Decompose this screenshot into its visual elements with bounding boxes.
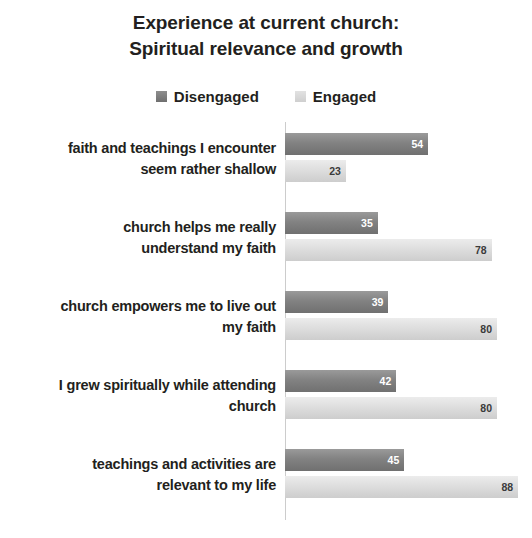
bar-value-label: 54 bbox=[411, 139, 423, 150]
bar-value-label: 88 bbox=[502, 482, 514, 493]
bar-engaged[interactable]: 80 bbox=[285, 318, 497, 340]
bar-disengaged[interactable]: 39 bbox=[285, 291, 388, 313]
bar-disengaged[interactable]: 42 bbox=[285, 370, 396, 392]
category-label: I grew spiritually while attending churc… bbox=[8, 375, 276, 417]
category-label-line: seem rather shallow bbox=[8, 159, 276, 180]
bar-value-label: 39 bbox=[372, 297, 384, 308]
chart-legend: Disengaged Engaged bbox=[0, 88, 532, 105]
bar-group: I grew spiritually while attending churc… bbox=[0, 367, 532, 425]
category-label-line: relevant to my life bbox=[8, 475, 276, 496]
bar-engaged[interactable]: 78 bbox=[285, 239, 492, 261]
legend-swatch-engaged-icon bbox=[295, 91, 306, 102]
category-label-line: church empowers me to live out bbox=[8, 296, 276, 317]
bar-disengaged[interactable]: 35 bbox=[285, 212, 378, 234]
bar-engaged[interactable]: 80 bbox=[285, 397, 497, 419]
category-label: faith and teachings I encounter seem rat… bbox=[8, 138, 276, 180]
plot-area: faith and teachings I encounter seem rat… bbox=[0, 122, 532, 522]
legend-label-engaged: Engaged bbox=[313, 88, 376, 105]
bar-value-label: 35 bbox=[361, 218, 373, 229]
category-label: church helps me really understand my fai… bbox=[8, 217, 276, 259]
category-label-line: understand my faith bbox=[8, 238, 276, 259]
category-label-line: teachings and activities are bbox=[8, 454, 276, 475]
category-label-line: faith and teachings I encounter bbox=[8, 138, 276, 159]
category-label: church empowers me to live out my faith bbox=[8, 296, 276, 338]
bar-value-label: 45 bbox=[388, 455, 400, 466]
bar-group: church helps me really understand my fai… bbox=[0, 209, 532, 267]
bar-value-label: 80 bbox=[480, 324, 492, 335]
legend-swatch-disengaged-icon bbox=[156, 91, 167, 102]
bar-chart: Experience at current church: Spiritual … bbox=[0, 0, 532, 538]
bar-disengaged[interactable]: 54 bbox=[285, 133, 428, 155]
legend-label-disengaged: Disengaged bbox=[174, 88, 259, 105]
chart-title: Experience at current church: Spiritual … bbox=[0, 10, 532, 61]
bar-group: teachings and activities are relevant to… bbox=[0, 446, 532, 504]
bar-group: faith and teachings I encounter seem rat… bbox=[0, 130, 532, 188]
legend-entry-engaged[interactable]: Engaged bbox=[295, 88, 376, 105]
bar-value-label: 80 bbox=[480, 403, 492, 414]
bar-disengaged[interactable]: 45 bbox=[285, 449, 404, 471]
bar-engaged[interactable]: 88 bbox=[285, 476, 518, 498]
bar-value-label: 78 bbox=[475, 245, 487, 256]
chart-title-line-1: Experience at current church: bbox=[0, 10, 532, 36]
category-label: teachings and activities are relevant to… bbox=[8, 454, 276, 496]
legend-entry-disengaged[interactable]: Disengaged bbox=[156, 88, 259, 105]
category-label-line: church helps me really bbox=[8, 217, 276, 238]
bar-value-label: 42 bbox=[380, 376, 392, 387]
category-label-line: I grew spiritually while attending bbox=[8, 375, 276, 396]
bar-engaged[interactable]: 23 bbox=[285, 160, 346, 182]
category-label-line: my faith bbox=[8, 317, 276, 338]
chart-title-line-2: Spiritual relevance and growth bbox=[0, 36, 532, 62]
category-label-line: church bbox=[8, 396, 276, 417]
bar-group: church empowers me to live out my faith … bbox=[0, 288, 532, 346]
bar-value-label: 23 bbox=[329, 166, 341, 177]
